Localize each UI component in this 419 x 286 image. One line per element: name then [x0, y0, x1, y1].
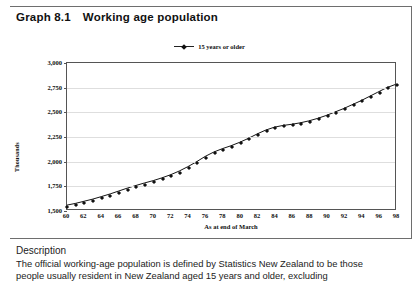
description-block: Description The official working-age pop…	[16, 245, 408, 281]
x-tick-label: 98	[393, 212, 400, 219]
data-point-marker	[395, 83, 399, 87]
y-axis-ticks: 1,5001,7502,0002,2502,5002,7503,000	[16, 62, 62, 210]
y-tick-mark	[64, 112, 67, 113]
y-tick-mark	[64, 137, 67, 138]
x-tick-label: 96	[375, 212, 382, 219]
y-tick-mark	[64, 162, 67, 163]
x-tick-label: 86	[289, 212, 296, 219]
y-tick-label: 1,500	[20, 207, 62, 214]
x-tick-label: 92	[341, 212, 348, 219]
x-tick-label: 78	[219, 212, 226, 219]
x-tick-label: 80	[236, 212, 243, 219]
chart-area: Thousands 1,5001,7502,0002,2502,5002,750…	[16, 62, 396, 232]
x-tick-label: 76	[202, 212, 209, 219]
grid-line	[67, 186, 395, 187]
x-tick-label: 84	[271, 212, 278, 219]
description-line-2: people usually resident in New Zealand a…	[16, 270, 408, 282]
y-tick-mark	[64, 186, 67, 187]
x-tick-label: 94	[358, 212, 365, 219]
y-tick-label: 1,750	[20, 182, 62, 189]
x-axis-label: As at end of March	[66, 223, 396, 230]
page-root: Graph 8.1Working age population 15 years…	[0, 0, 419, 286]
x-tick-label: 68	[132, 212, 139, 219]
x-tick-label: 66	[115, 212, 122, 219]
y-tick-mark	[64, 88, 67, 89]
x-tick-label: 90	[323, 212, 330, 219]
x-tick-label: 70	[150, 212, 157, 219]
line-marker-icon	[174, 43, 194, 50]
page-rule-top	[10, 6, 412, 7]
x-tick-label: 72	[167, 212, 174, 219]
y-tick-label: 2,250	[20, 133, 62, 140]
page-rule-bottom	[10, 238, 412, 239]
grid-line	[67, 88, 395, 89]
description-line-1: The official working-age population is d…	[16, 258, 408, 270]
chart-legend: 15 years or older	[0, 43, 419, 50]
grid-line	[67, 162, 395, 163]
graph-title-text: Working age population	[83, 11, 218, 23]
graph-number: Graph 8.1	[16, 11, 71, 23]
plot-region	[66, 62, 396, 210]
page-title: Graph 8.1Working age population	[16, 11, 218, 23]
x-tick-label: 88	[306, 212, 313, 219]
x-tick-label: 74	[184, 212, 191, 219]
y-tick-label: 3,000	[20, 59, 62, 66]
x-tick-label: 62	[80, 212, 87, 219]
x-tick-label: 82	[254, 212, 261, 219]
x-tick-label: 60	[63, 212, 70, 219]
x-tick-label: 64	[97, 212, 104, 219]
description-heading: Description	[16, 245, 408, 256]
y-tick-mark	[64, 63, 67, 64]
y-tick-label: 2,750	[20, 83, 62, 90]
grid-line	[67, 137, 395, 138]
page-rule-right	[411, 6, 412, 238]
y-tick-label: 2,500	[20, 108, 62, 115]
grid-line	[67, 112, 395, 113]
y-tick-label: 2,000	[20, 157, 62, 164]
legend-series-label: 15 years or older	[198, 43, 245, 50]
